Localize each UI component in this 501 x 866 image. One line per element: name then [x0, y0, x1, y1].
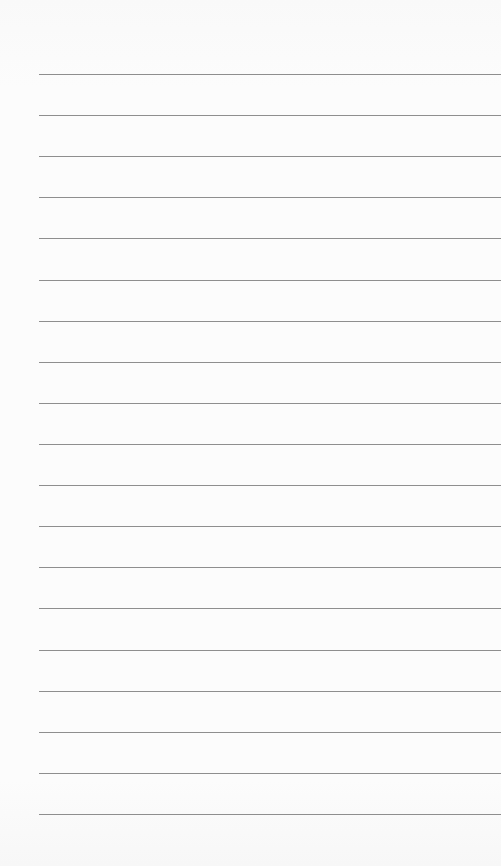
ruled-line: [39, 156, 501, 157]
ruled-line: [39, 732, 501, 733]
ruled-line: [39, 444, 501, 445]
ruled-line: [39, 197, 501, 198]
ruled-line: [39, 567, 501, 568]
ruled-line: [39, 814, 501, 815]
ruled-line: [39, 650, 501, 651]
ruled-line: [39, 74, 501, 75]
ruled-line: [39, 485, 501, 486]
ruled-line: [39, 403, 501, 404]
ruled-line: [39, 691, 501, 692]
ruled-line: [39, 526, 501, 527]
ruled-line: [39, 321, 501, 322]
ruled-line: [39, 115, 501, 116]
notepad-page: [0, 0, 501, 866]
ruled-line: [39, 238, 501, 239]
ruled-line: [39, 608, 501, 609]
ruled-line: [39, 362, 501, 363]
ruled-line: [39, 280, 501, 281]
ruled-line: [39, 773, 501, 774]
